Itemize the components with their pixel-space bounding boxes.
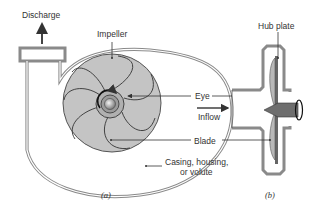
blade-side xyxy=(270,112,275,160)
caption-a: (a) xyxy=(101,190,111,200)
blade-label: Blade xyxy=(194,136,216,146)
shaft xyxy=(264,103,298,117)
discharge-label: Discharge xyxy=(22,10,61,20)
blade-side xyxy=(270,58,275,108)
eye xyxy=(105,99,116,110)
casing-label-line1: Casing, housing, xyxy=(165,157,228,167)
caption-b: (b) xyxy=(265,190,275,200)
hub-plate-label: Hub plate xyxy=(258,21,295,31)
eye-label: Eye xyxy=(195,91,210,101)
impeller-label: Impeller xyxy=(97,29,127,39)
centrifugal-pump-diagram: Discharge Impeller Eye Inflow Blade Casi… xyxy=(0,0,317,210)
casing-label-line2: or volute xyxy=(180,167,213,177)
side-view xyxy=(197,32,303,174)
discharge-outlet xyxy=(20,48,65,61)
inflow-label: Inflow xyxy=(198,112,221,122)
